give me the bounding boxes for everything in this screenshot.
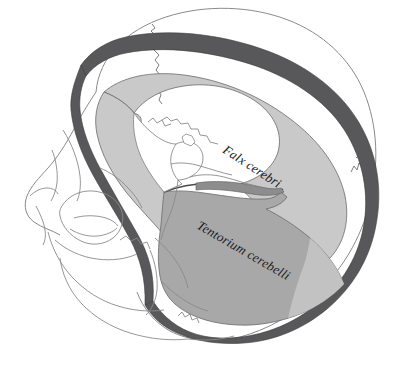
clinoid-process [182, 134, 195, 146]
sella-turcica [176, 142, 203, 180]
frontal-temporal-outline [25, 92, 96, 235]
anatomy-figure: Falx cerebri Tentorium cerebelli [0, 0, 399, 368]
orbit-inner-margin [70, 228, 117, 236]
skull-dura-illustration: Falx cerebri Tentorium cerebelli [0, 0, 399, 368]
zygomatic-arch [55, 240, 137, 260]
orbital-fissure [74, 216, 118, 226]
cribriform-plate [148, 118, 171, 126]
